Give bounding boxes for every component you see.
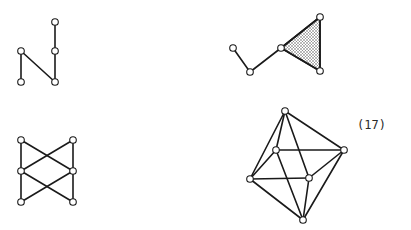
vertex-node [300, 217, 307, 224]
edge [250, 178, 309, 179]
edge [285, 111, 309, 178]
edge [303, 150, 344, 220]
vertex-node [341, 147, 348, 154]
graph-octahedron [247, 108, 348, 224]
vertex-node [282, 108, 289, 115]
edge [285, 111, 344, 150]
vertex-node [306, 175, 313, 182]
graph-n-shape [18, 19, 59, 86]
vertex-node [70, 199, 77, 206]
vertex-node [18, 48, 25, 55]
edge [21, 51, 55, 82]
vertex-node [18, 199, 25, 206]
vertex-node [317, 14, 324, 21]
vertex-node [52, 48, 59, 55]
vertex-node [230, 45, 237, 52]
edge [276, 111, 285, 150]
vertex-node [52, 79, 59, 86]
vertex-node [278, 45, 285, 52]
edge [250, 48, 281, 72]
graph-path-triangle [230, 14, 324, 76]
vertex-node [18, 137, 25, 144]
edge [233, 48, 250, 72]
edge [309, 150, 344, 178]
vertex-node [317, 68, 324, 75]
graph-bowtie [18, 137, 77, 206]
vertex-node [273, 147, 280, 154]
vertex-node [70, 168, 77, 175]
equation-number: (17) [357, 118, 386, 132]
edge [250, 111, 285, 179]
diagram-canvas [0, 0, 411, 230]
vertex-node [18, 168, 25, 175]
vertex-node [18, 79, 25, 86]
vertex-node [247, 69, 254, 76]
vertex-node [70, 137, 77, 144]
vertex-node [247, 176, 254, 183]
vertex-node [52, 19, 59, 26]
